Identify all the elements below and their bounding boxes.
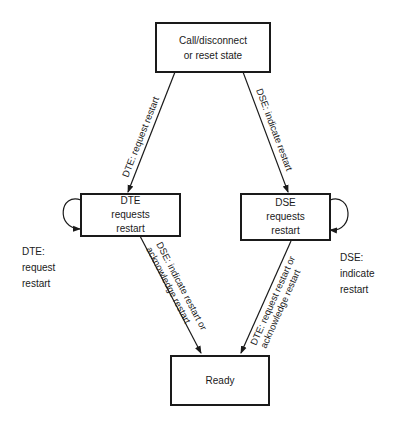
state-ready: Ready bbox=[170, 355, 270, 406]
state-label-line: Ready bbox=[206, 373, 235, 388]
state-call-disconnect-reset: Call/disconnect or reset state bbox=[155, 22, 271, 73]
loop-arrow-dte bbox=[63, 199, 81, 229]
transition-dse-to-ready: DTE: request restart or acknowledge rest… bbox=[241, 241, 303, 353]
self-loop-dte bbox=[63, 199, 81, 229]
state-label-line: restart bbox=[116, 222, 144, 236]
loop-label-line: indicate bbox=[340, 266, 374, 282]
transition-dte-to-ready: DSE: indicate restart or acknowledge res… bbox=[140, 236, 209, 353]
self-loop-label-dse: DSE: indicate restart bbox=[340, 250, 374, 298]
loop-arrow-dse bbox=[330, 199, 348, 230]
transition-call-to-dse: DSE: indicate restart bbox=[243, 72, 295, 192]
arrow-call-to-dte bbox=[128, 72, 175, 192]
loop-label-line: restart bbox=[340, 282, 374, 298]
state-label-line: DTE bbox=[121, 194, 141, 208]
self-loop-dse bbox=[330, 199, 348, 230]
loop-label-line: DSE: bbox=[340, 250, 374, 266]
transition-call-to-dte: DTE: request restart bbox=[120, 72, 175, 192]
loop-label-line: request bbox=[22, 260, 55, 276]
state-label-line: requests bbox=[266, 210, 304, 224]
state-label-line: or reset state bbox=[184, 48, 242, 63]
loop-label-line: restart bbox=[22, 276, 55, 292]
state-label-line: DSE bbox=[275, 196, 296, 210]
state-label-line: requests bbox=[111, 208, 149, 222]
state-label-line: Call/disconnect bbox=[179, 33, 247, 48]
label-dse-indicate-restart: DSE: indicate restart bbox=[254, 87, 295, 173]
self-loop-label-dte: DTE: request restart bbox=[22, 244, 55, 292]
state-dse-requests-restart: DSE requests restart bbox=[240, 193, 331, 241]
state-label-line: restart bbox=[271, 224, 299, 238]
loop-label-line: DTE: bbox=[22, 244, 55, 260]
state-dte-requests-restart: DTE requests restart bbox=[80, 193, 181, 237]
label-dte-request-restart: DTE: request restart bbox=[120, 95, 162, 179]
